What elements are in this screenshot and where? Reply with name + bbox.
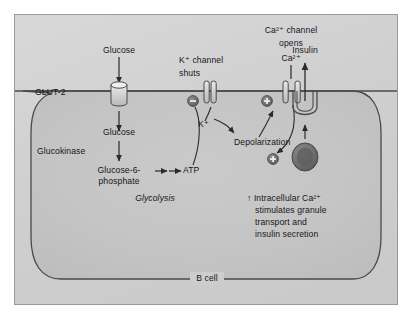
plus-circle-icon-ca: [262, 96, 273, 107]
plus-circle-icon-granule: [268, 154, 279, 165]
label-glucokinase: Glucokinase: [37, 146, 85, 156]
label-granule-note-line3: transport and: [255, 217, 307, 227]
label-insulin: Insulin: [292, 45, 318, 55]
label-granule-note-line4: insulin secretion: [255, 229, 318, 239]
label-k-channel-line2: shuts: [179, 68, 200, 78]
label-depolarization: Depolarization: [234, 137, 290, 147]
label-g6p-line2: phosphate: [98, 176, 139, 186]
secretory-granule-icon: [292, 143, 318, 171]
glut2-transporter-icon: [111, 82, 127, 106]
insulin-secretion-figure: Glucose GLUT-2 Glucose Glucokinase Gluco…: [0, 0, 412, 323]
label-b-cell: B cell: [196, 273, 218, 283]
label-glucose-extracellular: Glucose: [103, 45, 135, 55]
label-atp: ATP: [183, 165, 199, 175]
minus-circle-icon: [188, 96, 199, 107]
label-glycolysis: Glycolysis: [135, 193, 175, 203]
label-granule-note-line2: stimulates granule: [255, 205, 327, 215]
label-glut2: GLUT-2: [35, 87, 66, 97]
label-ca-channel-line1: Ca²⁺ channel: [265, 25, 318, 35]
figure-frame: Glucose GLUT-2 Glucose Glucokinase Gluco…: [14, 14, 398, 305]
label-granule-note-line1: ↑ Intracellular Ca²⁺: [247, 193, 321, 203]
label-k-channel-line1: K⁺ channel: [179, 55, 223, 65]
label-k-ion: K⁺: [198, 119, 209, 129]
label-g6p-line1: Glucose-6-: [97, 165, 140, 175]
label-glucose-intracellular: Glucose: [103, 127, 135, 137]
